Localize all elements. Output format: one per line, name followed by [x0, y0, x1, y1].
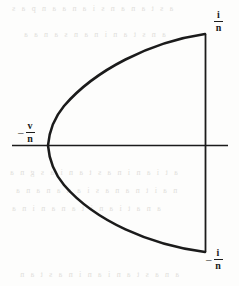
vertex-label-fraction: v n: [26, 121, 35, 144]
top-right-label: i n: [212, 10, 223, 33]
top-right-label-fraction: i n: [214, 10, 223, 33]
bottom-right-label-sign: –: [206, 254, 212, 265]
vertex-label-numerator: v: [27, 121, 34, 132]
bottom-right-label-denominator: n: [214, 260, 222, 271]
bottom-right-label: – i n: [206, 248, 223, 271]
parabola-curve: [48, 34, 205, 252]
top-right-label-numerator: i: [216, 10, 221, 21]
parabola-plot: [0, 0, 239, 286]
top-right-label-denominator: n: [215, 22, 223, 33]
bottom-right-label-fraction: i n: [214, 248, 223, 271]
vertex-label-sign: –: [18, 127, 24, 138]
vertex-label: – v n: [18, 121, 35, 144]
vertex-label-denominator: n: [26, 133, 34, 144]
bottom-right-label-numerator: i: [216, 248, 221, 259]
figure-container: a s t a n a n s i a n a a n p a s a n s …: [0, 0, 239, 286]
